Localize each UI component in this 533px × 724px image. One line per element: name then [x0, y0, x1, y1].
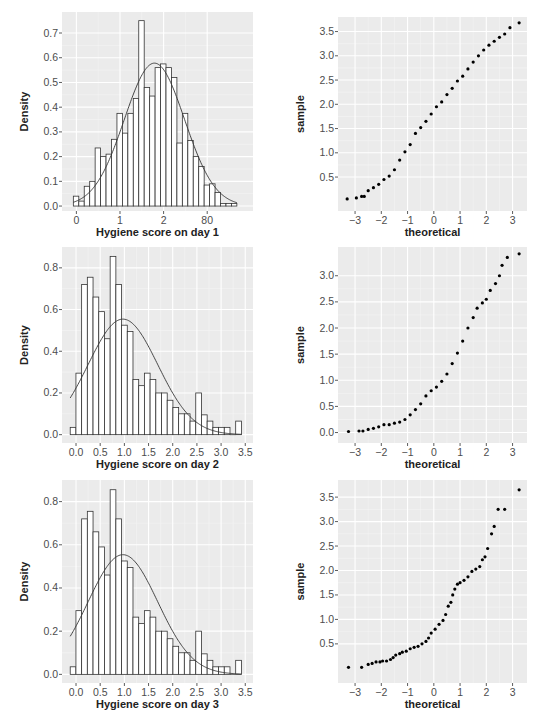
histogram-bar — [116, 519, 122, 674]
qq-point — [500, 264, 503, 267]
x-tick-label: 3.0 — [214, 446, 229, 458]
y-tick-label: 0.0 — [43, 200, 58, 212]
qq-point — [461, 75, 464, 78]
y-tick-label: 1.5 — [319, 122, 334, 134]
qq-point — [441, 619, 444, 622]
qq-point — [377, 183, 380, 186]
histogram-bar — [199, 167, 204, 207]
y-axis-title: Density — [18, 91, 30, 132]
histogram-bar — [184, 653, 190, 675]
qq-point — [481, 558, 484, 561]
y-axis: 0.00.20.40.60.8Density — [18, 495, 62, 680]
y-axis-title: Density — [18, 324, 30, 365]
histogram-bar — [221, 204, 226, 206]
hist-day3-panel: 0.00.51.01.52.02.53.03.5Hygiene score on… — [18, 480, 253, 710]
qq-point — [392, 656, 395, 659]
x-tick-label: 0.0 — [69, 446, 84, 458]
histogram-bar — [133, 617, 139, 674]
histogram-bar — [219, 667, 225, 675]
qq-point — [444, 613, 447, 616]
qq-point — [434, 628, 437, 631]
y-axis-title: Density — [18, 561, 30, 602]
qq-point — [451, 362, 454, 365]
y-tick-label: 0.8 — [43, 495, 58, 507]
x-tick-label: 1.0 — [117, 686, 132, 698]
qq-point — [424, 120, 427, 123]
qq-point — [355, 196, 358, 199]
x-tick-label: −3 — [349, 214, 361, 226]
x-tick-label: −1 — [402, 214, 414, 226]
y-tick-label: 1.0 — [319, 146, 334, 158]
qq-point — [470, 570, 473, 573]
qq-point — [372, 427, 375, 430]
qq-point — [508, 26, 511, 29]
histogram-bar — [110, 490, 116, 675]
qq-point — [409, 143, 412, 146]
x-tick-label: 1.5 — [141, 686, 156, 698]
histogram-bar — [179, 414, 185, 435]
x-tick-label: 1 — [457, 686, 463, 698]
y-tick-label: 0.4 — [43, 345, 58, 357]
x-axis: −3−2−10123theoretical — [349, 211, 516, 238]
qq-point — [394, 654, 397, 657]
histogram-bar — [150, 617, 156, 674]
y-tick-label: 2.0 — [319, 322, 334, 334]
qq-point — [385, 659, 388, 662]
qq-point — [435, 105, 438, 108]
x-tick-label: 0.5 — [93, 686, 108, 698]
qq-point — [506, 256, 509, 259]
qq-point — [372, 186, 375, 189]
qq-point — [487, 44, 490, 47]
y-tick-label: 2.0 — [319, 564, 334, 576]
y-tick-label: 0.4 — [43, 101, 58, 113]
qq-point — [494, 282, 497, 285]
qq-point — [466, 326, 469, 329]
y-tick-label: 2.5 — [319, 74, 334, 86]
histogram-bar — [144, 373, 150, 435]
qq-point — [382, 423, 385, 426]
y-tick-label: 0.2 — [43, 625, 58, 637]
histogram-bar — [144, 87, 149, 206]
histogram-bar — [104, 575, 110, 674]
qq-point — [401, 651, 404, 654]
x-tick-label: 2 — [161, 214, 167, 226]
histogram-bar — [156, 631, 162, 674]
histogram-bar — [93, 297, 99, 435]
histogram-bar — [70, 427, 76, 434]
histogram-bar — [156, 393, 162, 435]
y-axis-title: sample — [294, 326, 306, 364]
y-tick-label: 3.0 — [319, 515, 334, 527]
x-axis-title: theoretical — [405, 458, 461, 470]
x-tick-label: −1 — [402, 686, 414, 698]
qq-point — [420, 642, 423, 645]
x-tick-label: 2.0 — [165, 686, 180, 698]
qq-point — [414, 408, 417, 411]
y-tick-label: 0.3 — [43, 125, 58, 137]
qq-point — [485, 298, 488, 301]
qq-point — [403, 418, 406, 421]
hist-day1-panel: 01280Hygiene score on day 10.00.10.20.30… — [18, 12, 253, 238]
qq-point — [445, 93, 448, 96]
histogram-bar — [127, 331, 133, 434]
x-axis: −3−2−10123theoretical — [349, 683, 516, 710]
qq-point — [458, 581, 461, 584]
qq-point — [419, 126, 422, 129]
histogram-bar — [95, 148, 100, 206]
qq-point — [451, 593, 454, 596]
y-tick-label: 0.6 — [43, 538, 58, 550]
histogram-bar — [90, 181, 95, 206]
y-axis: 0.00.20.40.60.8Density — [18, 261, 62, 440]
x-tick-label: 2.0 — [165, 446, 180, 458]
x-tick-label: 1 — [457, 214, 463, 226]
histogram-bar — [231, 204, 236, 206]
histogram-bar — [207, 660, 213, 674]
histogram-bar — [122, 133, 127, 206]
qq-point — [347, 430, 350, 433]
qq-point — [424, 394, 427, 397]
histogram-bar — [196, 631, 202, 674]
qq-point — [360, 666, 363, 669]
histogram-bar — [236, 660, 242, 674]
histogram-bar — [161, 64, 166, 206]
qq-point — [377, 425, 380, 428]
histogram-bar — [210, 184, 215, 206]
